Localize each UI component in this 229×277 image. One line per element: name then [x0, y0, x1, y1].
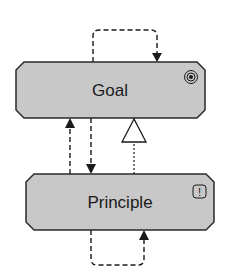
principle-to-goal-influence-edge[interactable] [65, 118, 75, 174]
principle-realizes-goal-edge[interactable] [122, 119, 146, 174]
arrowhead-icon [65, 118, 75, 128]
hollow-triangle-arrowhead-icon [122, 119, 146, 142]
arrowhead-icon [152, 53, 162, 62]
goal-label: Goal [92, 81, 128, 100]
goal-self-loop-edge[interactable] [93, 30, 162, 62]
arrowhead-icon [86, 164, 96, 174]
arrowhead-icon [139, 230, 149, 240]
goal-to-principle-influence-edge[interactable] [86, 118, 96, 174]
svg-text:!: ! [198, 186, 201, 198]
diagram-canvas: Goal Principle ! [0, 0, 229, 277]
principle-label: Principle [87, 193, 152, 212]
goal-node[interactable]: Goal [16, 62, 205, 118]
principle-node[interactable]: Principle ! [26, 174, 214, 230]
principle-self-loop-edge[interactable] [91, 230, 149, 265]
